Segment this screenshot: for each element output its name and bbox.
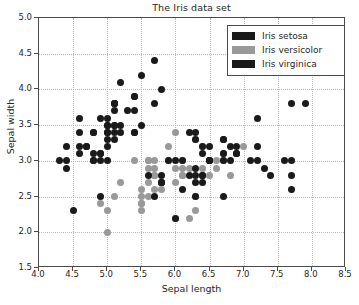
data-point <box>131 157 138 164</box>
data-point <box>233 143 240 150</box>
data-point <box>131 129 138 136</box>
data-point <box>192 136 199 143</box>
data-point <box>70 207 77 214</box>
data-point <box>76 143 83 150</box>
data-point <box>302 100 309 107</box>
data-point <box>220 136 227 143</box>
data-point <box>233 150 240 157</box>
data-point <box>138 200 145 207</box>
data-point <box>199 172 206 179</box>
data-point <box>179 172 186 179</box>
x-tick-mark <box>311 267 312 271</box>
data-point <box>145 172 152 179</box>
data-point <box>199 143 206 150</box>
data-point <box>172 157 179 164</box>
y-tick-label: 1.5 <box>2 262 32 272</box>
gridline-horizontal <box>39 232 344 234</box>
data-point <box>76 115 83 122</box>
data-point <box>151 57 158 64</box>
chart-figure: The Iris data set 4.04.55.05.56.06.57.07… <box>0 0 359 305</box>
x-tick-mark <box>38 267 39 271</box>
data-point <box>104 157 111 164</box>
legend-color-swatch <box>232 46 255 54</box>
data-point <box>192 172 199 179</box>
data-point <box>192 179 199 186</box>
y-tick-label: 2.0 <box>2 226 32 236</box>
data-point <box>104 115 111 122</box>
data-point <box>179 165 186 172</box>
legend-item[interactable]: Iris setosa <box>232 29 340 43</box>
data-point <box>90 129 97 136</box>
data-point <box>192 129 199 136</box>
data-point <box>158 172 165 179</box>
x-tick-mark <box>106 267 107 271</box>
data-point <box>199 165 206 172</box>
data-point <box>104 136 111 143</box>
y-tick-mark <box>34 267 38 268</box>
data-point <box>192 165 199 172</box>
data-point <box>179 157 186 164</box>
data-point <box>104 122 111 129</box>
data-point <box>227 143 234 150</box>
data-point <box>117 79 124 86</box>
data-point <box>138 72 145 79</box>
legend-item[interactable]: Iris versicolor <box>232 43 340 57</box>
data-point <box>131 93 138 100</box>
x-axis-label: Sepal length <box>38 283 345 294</box>
data-point <box>111 193 118 200</box>
data-point <box>158 186 165 193</box>
data-point <box>97 150 104 157</box>
x-tick-mark <box>174 267 175 271</box>
data-point <box>97 200 104 207</box>
data-point <box>104 229 111 236</box>
y-tick-label: 2.5 <box>2 191 32 201</box>
data-point <box>199 179 206 186</box>
data-point <box>206 143 213 150</box>
x-tick-label: 8.5 <box>325 269 359 279</box>
data-point <box>227 172 234 179</box>
data-point <box>90 150 97 157</box>
data-point <box>111 100 118 107</box>
data-point <box>104 207 111 214</box>
data-point <box>151 100 158 107</box>
data-point <box>145 179 152 186</box>
data-point <box>220 157 227 164</box>
data-point <box>288 172 295 179</box>
x-tick-mark <box>345 267 346 271</box>
x-tick-mark <box>243 267 244 271</box>
data-point <box>97 115 104 122</box>
data-point <box>220 150 227 157</box>
data-point <box>206 172 213 179</box>
data-point <box>254 143 261 150</box>
data-point <box>90 157 97 164</box>
x-tick-mark <box>72 267 73 271</box>
data-point <box>63 165 70 172</box>
data-point <box>199 150 206 157</box>
legend-item[interactable]: Iris virginica <box>232 57 340 71</box>
data-point <box>172 129 179 136</box>
x-tick-mark <box>140 267 141 271</box>
data-point <box>220 193 227 200</box>
data-point <box>206 157 213 164</box>
y-tick-mark <box>34 53 38 54</box>
data-point <box>76 150 83 157</box>
gridline-horizontal <box>39 125 344 127</box>
legend-label: Iris virginica <box>262 59 317 69</box>
data-point <box>104 129 111 136</box>
data-point <box>192 193 199 200</box>
data-point <box>56 157 63 164</box>
legend: Iris setosaIris versicolorIris virginica <box>227 25 345 76</box>
data-point <box>151 193 158 200</box>
data-point <box>104 143 111 150</box>
data-point <box>172 165 179 172</box>
y-tick-mark <box>34 88 38 89</box>
data-point <box>158 179 165 186</box>
data-point <box>138 186 145 193</box>
y-tick-mark <box>34 231 38 232</box>
x-tick-mark <box>277 267 278 271</box>
data-point <box>288 186 295 193</box>
y-tick-mark <box>34 160 38 161</box>
data-point <box>63 157 70 164</box>
data-point <box>117 122 124 129</box>
data-point <box>131 107 138 114</box>
